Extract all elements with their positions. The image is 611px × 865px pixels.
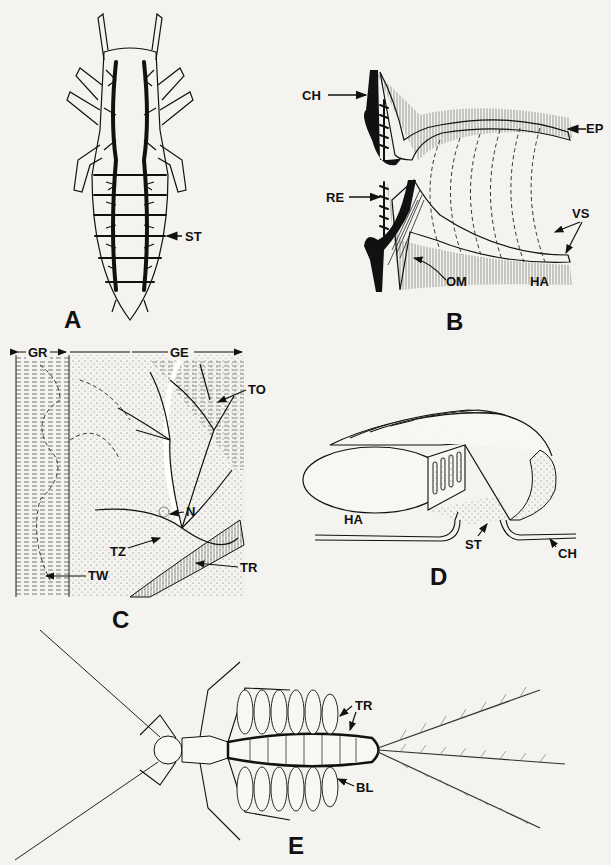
label-tw: TW <box>88 568 109 583</box>
tracheal-commissures <box>94 175 166 282</box>
label-ha-d: HA <box>344 512 363 527</box>
label-n: N <box>186 504 195 519</box>
label-tz: TZ <box>110 544 126 559</box>
panel-b-tracheal-wall-section: CH EP RE VS OM HA B <box>302 70 604 335</box>
label-ge: GE <box>170 345 189 360</box>
label-bl: BL <box>356 780 373 795</box>
panel-letter-e: E <box>288 832 304 859</box>
label-ha: HA <box>530 274 549 289</box>
panel-letter-d: D <box>430 563 447 590</box>
label-to: TO <box>248 382 266 397</box>
panel-letter-a: A <box>64 306 81 333</box>
panel-letter-b: B <box>446 308 463 335</box>
label-ep: EP <box>586 121 604 136</box>
figure-canvas: ST A CH EP RE VS <box>0 0 611 865</box>
panel-a-larva-tracheal-system: ST A <box>64 14 202 333</box>
label-ch: CH <box>302 88 321 103</box>
panel-e-mayfly-nymph-gills: TR BL E <box>15 630 565 860</box>
taenidia-rings <box>430 128 545 262</box>
label-st-d: ST <box>465 537 482 552</box>
label-st: ST <box>185 229 202 244</box>
caudal-filaments <box>378 690 565 828</box>
panel-letter-c: C <box>112 606 129 633</box>
svg-text:GR: GR <box>28 345 48 360</box>
label-tr-e: TR <box>355 698 373 713</box>
label-ch-d: CH <box>558 546 577 561</box>
label-vs: VS <box>572 206 590 221</box>
label-tr: TR <box>240 560 258 575</box>
panel-c-tracheole-endings: GR GR GE TO N TZ TR TW C <box>16 345 266 633</box>
label-om: OM <box>446 274 467 289</box>
label-re: RE <box>326 190 344 205</box>
panel-d-spiracle-atrium: HA ST CH D <box>303 410 577 590</box>
